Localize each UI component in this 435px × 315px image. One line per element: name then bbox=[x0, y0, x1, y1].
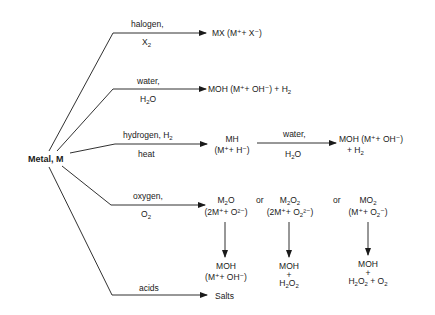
oxide-product: M2O (2M⁺+ O²⁻) bbox=[200, 196, 252, 216]
water-product: MOH (M⁺+ OH⁻) + H2 bbox=[208, 85, 291, 94]
hydride-hydrolysis-product: MOH (M⁺+ OH⁻) + H2 bbox=[339, 135, 403, 154]
halogen-reagent-label: halogen, bbox=[131, 20, 164, 29]
acids-branch-line bbox=[49, 167, 207, 295]
superoxide-product: MO2 (M⁺+ O2⁻) bbox=[343, 196, 393, 216]
hydride-product: MH (M⁺+ H⁻) bbox=[207, 135, 257, 154]
source-node-metal: Metal, M bbox=[28, 155, 64, 164]
hydride-water-label: water, bbox=[283, 130, 306, 139]
peroxide-product: M2O2 (2M⁺+ O2²⁻) bbox=[262, 196, 318, 216]
oxygen-reagent-label: oxygen, bbox=[133, 192, 163, 201]
acids-product: Salts bbox=[215, 292, 234, 301]
peroxide-hydrolysis-product: MOH + H2O2 bbox=[269, 262, 309, 288]
hydride-water-formula: H2O bbox=[285, 150, 301, 159]
hydrogen-reagent-label: hydrogen, H2 bbox=[123, 131, 173, 140]
halogen-product: MX (M⁺+ X⁻) bbox=[212, 29, 262, 38]
oxide-hydrolysis-product: MOH (M⁺+ OH⁻) bbox=[200, 262, 252, 281]
water-reagent-formula: H2O bbox=[140, 95, 156, 104]
water-branch-line bbox=[57, 89, 206, 151]
or-connector-2: or bbox=[333, 196, 341, 205]
oxygen-reagent-formula: O2 bbox=[141, 210, 151, 219]
halogen-reagent-formula: X2 bbox=[142, 38, 151, 47]
acids-reagent-label: acids bbox=[139, 284, 159, 293]
water-reagent-label: water, bbox=[137, 77, 160, 86]
superoxide-hydrolysis-product: MOH + H2O2 + O2 bbox=[338, 260, 398, 286]
hydrogen-condition-heat: heat bbox=[138, 150, 155, 159]
